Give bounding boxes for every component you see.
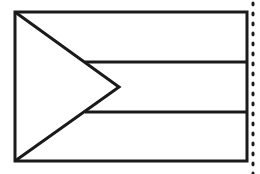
chevron-triangle	[15, 12, 119, 161]
dotted-edge-line	[251, 2, 254, 174]
flag-outline-drawing	[0, 0, 260, 174]
flag-border	[15, 12, 247, 161]
